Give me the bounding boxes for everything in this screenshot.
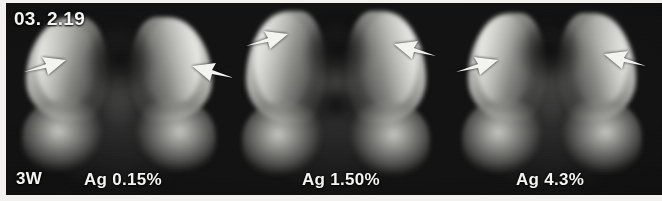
scan-panel-ag-43: [440, 3, 662, 195]
timepoint-label: 3W: [16, 169, 42, 189]
radiograph-figure: 03. 2.19 3W Ag 0.15% Ag 1.50% Ag 4.3%: [0, 0, 662, 201]
concentration-label-ag-43: Ag 4.3%: [516, 170, 584, 190]
scan-panel-ag-150: [232, 3, 440, 195]
concentration-label-ag-015: Ag 0.15%: [84, 170, 162, 190]
annotation-arrow-right: [190, 59, 232, 85]
annotation-arrow-left: [244, 27, 290, 53]
concentration-label-ag-150: Ag 1.50%: [302, 170, 380, 190]
central-lucency: [310, 83, 362, 127]
pelvic-cavity-shadow: [512, 15, 588, 87]
annotation-arrow-right: [392, 37, 438, 63]
annotation-arrow-left: [22, 53, 68, 79]
annotation-arrow-right: [602, 47, 648, 73]
annotation-arrow-left: [454, 53, 500, 79]
pelvic-cavity-shadow: [298, 13, 376, 87]
scan-panel-ag-015: [6, 3, 232, 195]
radiograph-plate: 03. 2.19 3W Ag 0.15% Ag 1.50% Ag 4.3%: [6, 3, 662, 195]
date-stamp: 03. 2.19: [14, 8, 85, 30]
pelvic-cavity-shadow: [80, 19, 160, 99]
